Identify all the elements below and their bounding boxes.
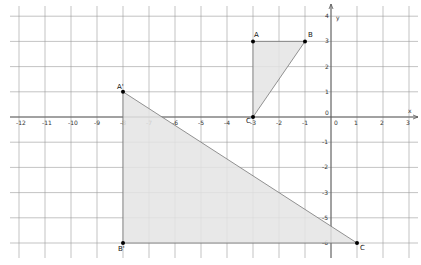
vertex-label: C: [246, 117, 251, 125]
x-tick-label: -9: [94, 119, 100, 126]
vertex-label: A': [117, 83, 124, 91]
vertex-point: [251, 39, 255, 43]
vertex-point: [303, 39, 307, 43]
x-tick-label: 1: [354, 119, 358, 126]
vertex-label: B: [308, 31, 313, 39]
x-tick-label: 2: [380, 119, 384, 126]
x-tick-label: 3: [406, 119, 410, 126]
x-tick-label: -3: [250, 119, 256, 126]
origin-label: 0: [334, 119, 338, 126]
y-tick-label: 0: [325, 109, 329, 116]
vertex-label: B': [118, 245, 125, 253]
x-tick-label: -2: [276, 119, 282, 126]
y-tick-label: -2: [322, 163, 328, 170]
vertex-label: C: [360, 244, 365, 252]
y-axis-label: y: [336, 14, 340, 22]
coordinate-grid: yx-12-11-10-9-8-7-6-5-4-3-2-1012343210-1…: [0, 0, 421, 265]
x-tick-label: -11: [42, 119, 52, 126]
y-tick-label: 4: [325, 12, 329, 19]
y-tick-label: 1: [325, 88, 329, 95]
x-axis-label: x: [408, 107, 412, 114]
x-tick-label: -10: [68, 119, 78, 126]
x-tick-label: -1: [302, 119, 308, 126]
y-tick-label: -3: [322, 189, 328, 196]
y-tick-label: -5: [322, 214, 328, 221]
vertex-point: [355, 241, 359, 245]
y-tick-label: 3: [325, 37, 329, 44]
vertex-label: A: [254, 31, 259, 39]
x-tick-label: -12: [16, 119, 26, 126]
y-tick-label: 2: [325, 63, 329, 70]
vertex-point: [251, 115, 255, 119]
x-tick-label: -5: [198, 119, 204, 126]
x-tick-label: -4: [224, 119, 230, 126]
y-tick-label: -1: [322, 138, 328, 145]
